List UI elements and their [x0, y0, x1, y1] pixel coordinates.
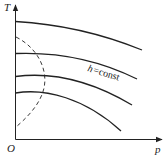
x-axis-label: p — [154, 143, 161, 155]
inversion-curve-dashed — [16, 37, 45, 127]
y-axis-label: T — [4, 1, 11, 13]
isenthalpic-curve-1 — [16, 22, 143, 51]
curve-label-const: =const — [92, 64, 121, 82]
tp-diagram: T p O h =const — [0, 0, 166, 160]
origin-label: O — [7, 142, 15, 154]
isenthalpic-curve-4 — [16, 92, 122, 131]
diagram-canvas: T p O h =const — [0, 0, 166, 160]
